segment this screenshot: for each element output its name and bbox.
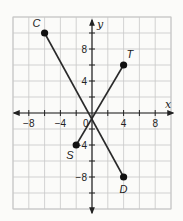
x-tick-label: 4 (121, 118, 127, 129)
x-tick-label: −8 (23, 118, 35, 129)
origin-label: 0 (83, 118, 89, 129)
y-tick-label: 8 (81, 44, 87, 55)
point-label-D: D (120, 183, 128, 195)
point-label-S: S (66, 149, 74, 161)
point-label-C: C (33, 17, 41, 29)
point-label-T: T (127, 48, 135, 60)
y-axis-label: y (96, 18, 104, 31)
x-tick-label: −4 (55, 118, 67, 129)
point-D (120, 173, 127, 180)
y-tick-label: 4 (81, 76, 87, 87)
coordinate-plane: −8−44884−4−8 CTSD x y 0 (0, 0, 183, 221)
x-tick-label: 8 (152, 118, 158, 129)
x-axis-label: x (165, 98, 172, 111)
y-tick-label: −8 (76, 172, 88, 183)
point-S (73, 141, 80, 148)
point-C (41, 29, 48, 36)
point-T (120, 61, 127, 68)
